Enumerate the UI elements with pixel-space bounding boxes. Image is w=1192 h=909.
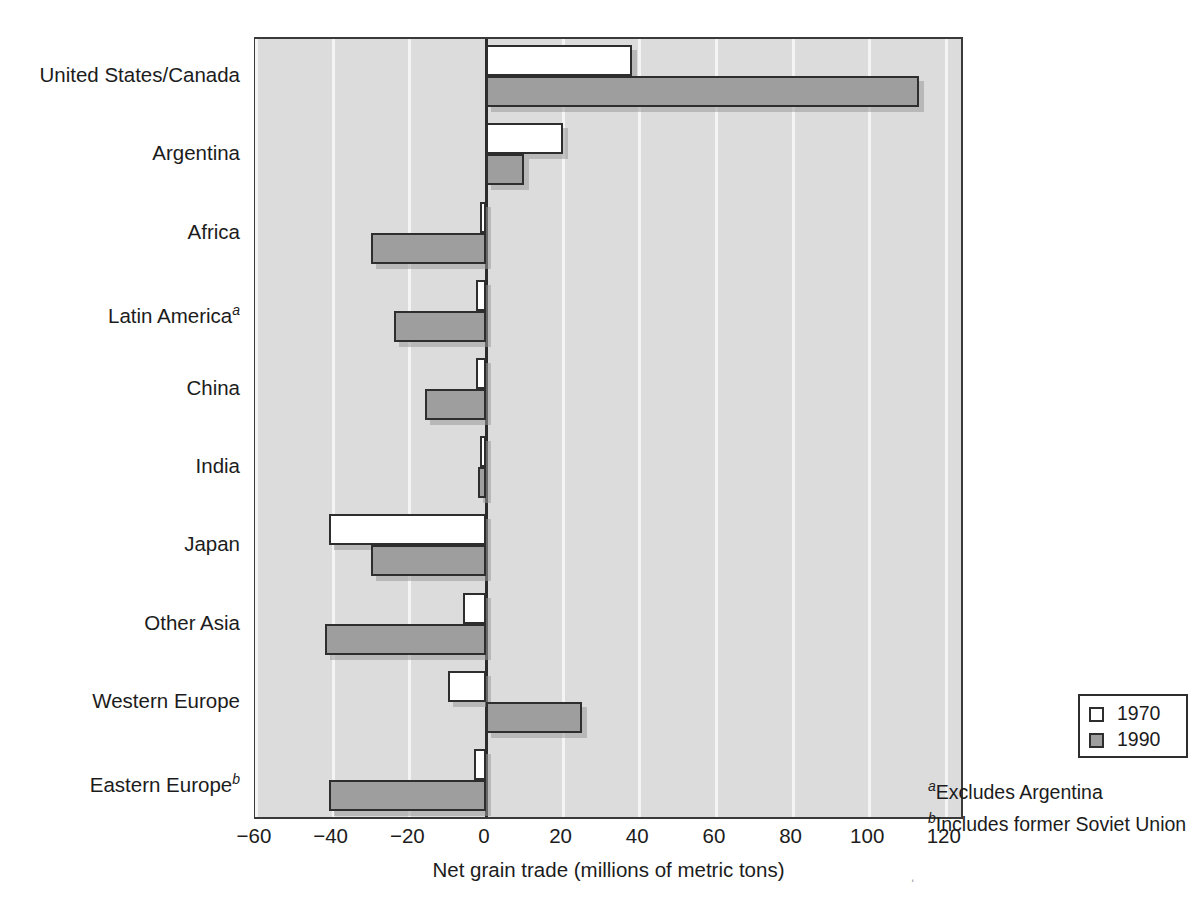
footnote-mark: a — [928, 778, 936, 794]
gridline — [868, 39, 871, 817]
gridline — [332, 39, 335, 817]
bar-1990-india — [478, 467, 486, 498]
category-label-united-states-canada: United States/Canada — [0, 65, 240, 86]
bar-1990-eastern-europe — [329, 780, 486, 811]
bar-1990-other-asia — [325, 624, 486, 655]
category-label-text: Japan — [184, 532, 240, 555]
x-tick-label-100: 100 — [832, 824, 902, 848]
bar-1990-africa — [371, 233, 486, 264]
bar-1970-argentina — [486, 123, 563, 154]
bar-1990-argentina — [486, 154, 524, 185]
legend: 19701990 — [1078, 694, 1188, 758]
bar-1970-africa — [480, 202, 486, 233]
gridline — [945, 39, 948, 817]
footnote-marker: a — [232, 302, 240, 318]
gridline — [408, 39, 411, 817]
x-tick-label-80: 80 — [756, 824, 826, 848]
legend-label: 1970 — [1117, 704, 1160, 724]
gridline — [255, 39, 258, 817]
legend-label: 1990 — [1117, 730, 1160, 750]
bar-1970-united-states-canada — [486, 45, 632, 76]
bar-1990-china — [425, 389, 486, 420]
category-label-text: Africa — [188, 220, 240, 243]
x-tick-label-0: 0 — [449, 824, 519, 848]
x-tick-label-120: 120 — [909, 824, 979, 848]
x-tick-label-60: 60 — [679, 824, 749, 848]
bar-1990-united-states-canada — [486, 76, 919, 107]
gridline — [715, 39, 718, 817]
category-label-argentina: Argentina — [0, 143, 240, 164]
category-label-china: China — [0, 378, 240, 399]
x-tick-label-40: 40 — [602, 824, 672, 848]
category-label-text: India — [196, 454, 240, 477]
legend-swatch-icon — [1089, 733, 1104, 748]
gridline — [638, 39, 641, 817]
x-tick-label-neg40: −40 — [296, 824, 366, 848]
bar-shadow — [485, 207, 491, 238]
x-axis-title: Net grain trade (millions of metric tons… — [254, 858, 963, 882]
plot-area: 19701990 aExcludes ArgentinabIncludes fo… — [254, 37, 963, 819]
x-tick-label-20: 20 — [526, 824, 596, 848]
category-label-latin-america: Latin Americaa — [0, 300, 240, 326]
bar-1970-china — [476, 358, 486, 389]
category-label-india: India — [0, 456, 240, 477]
bar-1970-latin-america — [476, 280, 486, 311]
category-label-other-asia: Other Asia — [0, 613, 240, 634]
x-axis-ticks: −60−40−20020406080100120 — [254, 824, 963, 852]
category-label-eastern-europe: Eastern Europeb — [0, 769, 240, 795]
x-tick-label-neg20: −20 — [372, 824, 442, 848]
footnote-marker: b — [232, 771, 240, 787]
legend-item-1990[interactable]: 1990 — [1089, 727, 1186, 753]
category-axis: United States/CanadaArgentinaAfricaLatin… — [0, 37, 240, 819]
legend-swatch-icon — [1089, 707, 1104, 722]
bar-1970-other-asia — [463, 593, 486, 624]
footnote-a: aExcludes Argentina — [928, 773, 1192, 805]
stray-mark: ʹ — [911, 877, 913, 889]
category-label-africa: Africa — [0, 222, 240, 243]
legend-item-1970[interactable]: 1970 — [1089, 701, 1186, 727]
category-label-text: China — [186, 376, 240, 399]
category-label-text: United States/Canada — [39, 63, 240, 86]
bar-1970-india — [480, 436, 486, 467]
category-label-text: Western Europe — [92, 689, 240, 712]
category-label-western-europe: Western Europe — [0, 691, 240, 712]
bar-shadow — [485, 441, 491, 472]
bar-1970-japan — [329, 514, 486, 545]
category-label-japan: Japan — [0, 534, 240, 555]
footnote-text: Excludes Argentina — [936, 781, 1103, 803]
category-label-text: Eastern Europe — [90, 773, 232, 796]
bar-1990-western-europe — [486, 702, 582, 733]
bar-1990-japan — [371, 545, 486, 576]
x-tick-label-neg60: −60 — [219, 824, 289, 848]
category-label-text: Other Asia — [144, 611, 240, 634]
gridline — [792, 39, 795, 817]
category-label-text: Argentina — [152, 141, 240, 164]
bar-1970-eastern-europe — [474, 749, 485, 780]
category-label-text: Latin America — [108, 304, 232, 327]
bar-1990-latin-america — [394, 311, 486, 342]
bar-1970-western-europe — [448, 671, 486, 702]
